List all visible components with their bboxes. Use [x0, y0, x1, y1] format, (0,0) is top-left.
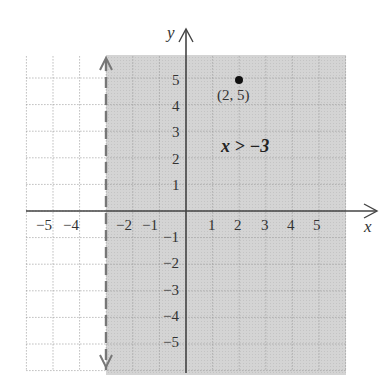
x-tick: −5 [36, 217, 52, 233]
x-tick: 3 [261, 217, 269, 233]
shaded-region [106, 55, 346, 375]
x-tick: −4 [63, 217, 79, 233]
x-tick: −2 [116, 217, 132, 233]
y-tick: −5 [163, 334, 179, 350]
x-tick: 5 [313, 217, 321, 233]
coordinate-plane: y x −5 −4 −2 −1 1 2 3 4 5 5 4 3 2 1 −1 −… [0, 0, 392, 385]
y-tick: 4 [172, 98, 180, 114]
y-tick: −2 [163, 255, 179, 271]
y-tick: 1 [172, 177, 180, 193]
y-tick: 5 [172, 72, 180, 88]
y-tick: −3 [163, 282, 179, 298]
y-tick: 3 [172, 124, 180, 140]
y-tick: −1 [163, 229, 179, 245]
y-axis-label: y [165, 23, 175, 42]
point-label: (2, 5) [217, 87, 250, 104]
x-tick: 1 [208, 217, 216, 233]
x-tick: −1 [142, 217, 158, 233]
inequality-label: x > −3 [220, 136, 269, 156]
y-tick: 2 [172, 151, 180, 167]
x-tick: 4 [287, 217, 295, 233]
x-tick: 2 [234, 217, 242, 233]
y-tick: −4 [163, 308, 179, 324]
x-axis-label: x [363, 217, 372, 236]
data-point [235, 76, 243, 84]
